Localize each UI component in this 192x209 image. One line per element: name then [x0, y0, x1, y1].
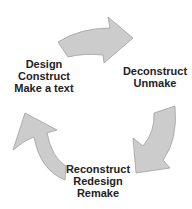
arrow-design-to-deconstruct-icon: [58, 17, 133, 63]
stage-reconstruct: Reconstruct Redesign Remake: [66, 163, 130, 199]
stage-design-line-3: Make a text: [14, 82, 73, 94]
arrow-deconstruct-to-reconstruct-icon: [133, 106, 176, 173]
stage-reconstruct-line-1: Reconstruct: [66, 163, 130, 175]
stage-design-line-1: Design: [14, 58, 73, 70]
arrow-reconstruct-to-design-icon: [13, 113, 66, 180]
stage-reconstruct-line-2: Redesign: [66, 175, 130, 187]
stage-reconstruct-line-3: Remake: [66, 187, 130, 199]
stage-design-line-2: Construct: [14, 70, 73, 82]
stage-deconstruct: Deconstruct Unmake: [123, 65, 187, 89]
stage-deconstruct-line-1: Deconstruct: [123, 65, 187, 77]
stage-deconstruct-line-2: Unmake: [123, 77, 187, 89]
stage-design: Design Construct Make a text: [14, 58, 73, 94]
